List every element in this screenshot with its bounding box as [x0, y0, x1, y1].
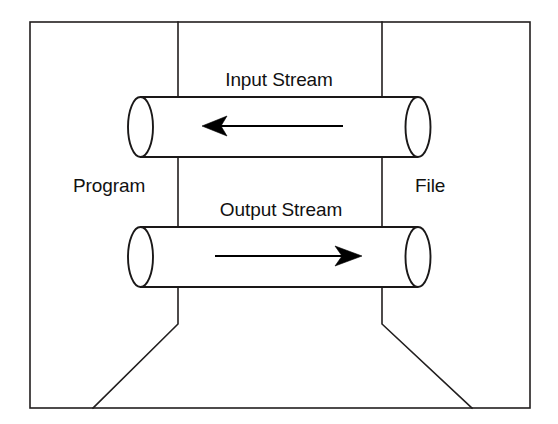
- input-tube-right-cap: [406, 97, 431, 157]
- input-tube-left-cap: [128, 97, 153, 157]
- file-label: File: [415, 176, 445, 195]
- file-boundary-line: [382, 22, 472, 408]
- input-stream-label: Input Stream: [225, 70, 333, 89]
- program-label: Program: [73, 176, 145, 195]
- output-tube-right-cap: [406, 227, 431, 287]
- output-tube-left-cap: [128, 227, 153, 287]
- output-stream-label: Output Stream: [220, 200, 342, 219]
- program-boundary-line: [93, 22, 178, 408]
- stream-diagram: Input Stream Output Stream Program File: [0, 0, 558, 424]
